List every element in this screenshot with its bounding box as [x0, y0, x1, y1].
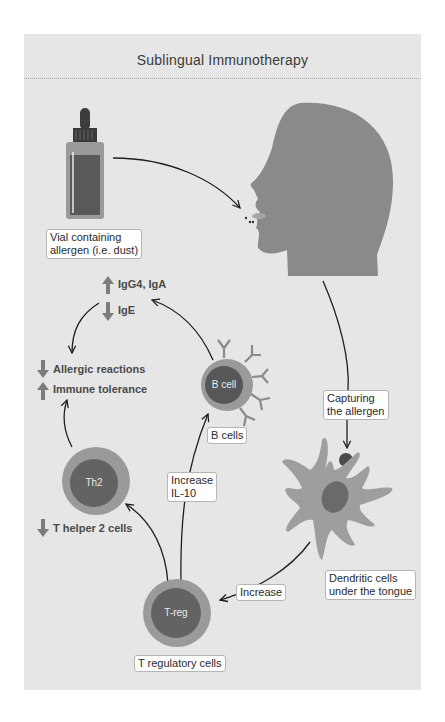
t-regulatory-label: T regulatory cells [134, 655, 226, 672]
treg-cell-label: T-reg [156, 607, 196, 618]
capturing-label: Capturing the allergen [323, 390, 389, 420]
dendritic-label: Dendritic cells under the tongue [325, 570, 416, 600]
vial-label-line1: Vial containing [50, 231, 138, 244]
increase-il10-line2: IL-10 [171, 487, 213, 500]
effect-allergic-reactions: Allergic reactions [53, 363, 145, 375]
effect-ige: IgE [118, 304, 135, 316]
dendritic-label-line1: Dendritic cells [329, 572, 412, 585]
dendritic-cell-icon [282, 438, 392, 560]
capturing-label-line1: Capturing [327, 392, 385, 405]
dendritic-label-line2: under the tongue [329, 585, 412, 598]
b-cell-label: B cell [204, 379, 244, 390]
th2-cell-label: Th2 [74, 477, 114, 488]
head-silhouette [251, 103, 393, 276]
vial-label: Vial containing allergen (i.e. dust) [46, 229, 142, 259]
effect-immune-tolerance: Immune tolerance [53, 383, 147, 395]
increase-il10-label: Increase IL-10 [167, 472, 217, 502]
effect-t-helper-2: T helper 2 cells [53, 522, 132, 534]
effect-igg4-iga: IgG4, IgA [118, 278, 166, 290]
increase-il10-line1: Increase [171, 474, 213, 487]
capturing-label-line2: the allergen [327, 405, 385, 418]
diagram-artwork [0, 0, 445, 722]
vial-label-line2: allergen (i.e. dust) [50, 244, 138, 257]
b-cells-label: B cells [207, 427, 247, 444]
vial-icon [66, 108, 104, 219]
increase-label: Increase [236, 584, 286, 601]
